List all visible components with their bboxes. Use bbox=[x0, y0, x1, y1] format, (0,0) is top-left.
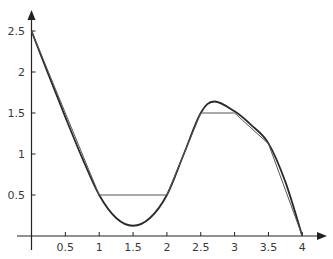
y-tick-label: 2 bbox=[18, 66, 25, 79]
x-tick-label: 3 bbox=[231, 241, 238, 254]
chart: 0.511.522.533.54 0.511.522.5 bbox=[0, 0, 333, 259]
x-tick-label: 1.5 bbox=[124, 241, 142, 254]
y-tick-label: 0.5 bbox=[8, 189, 26, 202]
x-tick-label: 1 bbox=[96, 241, 103, 254]
y-axis-arrow-icon bbox=[28, 10, 36, 20]
y-tick-label: 2.5 bbox=[8, 25, 26, 38]
x-axis bbox=[17, 232, 327, 240]
y-tick-label: 1 bbox=[18, 148, 25, 161]
x-tick-label: 0.5 bbox=[57, 241, 75, 254]
x-ticks: 0.511.522.533.54 bbox=[57, 232, 306, 254]
plot-area bbox=[32, 31, 303, 236]
y-tick-label: 1.5 bbox=[8, 107, 26, 120]
x-tick-label: 3.5 bbox=[260, 241, 278, 254]
smooth-curve bbox=[32, 31, 303, 236]
x-axis-arrow-icon bbox=[317, 232, 327, 240]
x-tick-label: 4 bbox=[299, 241, 306, 254]
y-axis bbox=[28, 10, 36, 250]
x-tick-label: 2.5 bbox=[192, 241, 210, 254]
x-tick-label: 2 bbox=[163, 241, 170, 254]
